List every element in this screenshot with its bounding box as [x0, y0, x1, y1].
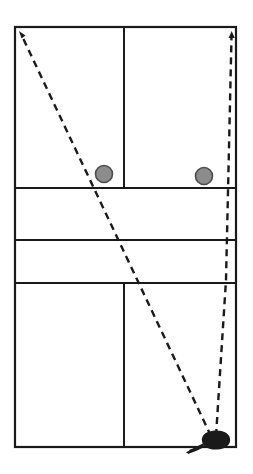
trajectories-group	[19, 31, 235, 436]
player-with-racket-figure	[186, 431, 230, 454]
shuttle-landing-left-marker	[96, 166, 113, 183]
shuttle-landing-right-marker	[196, 168, 213, 185]
racket-handle-silhouette	[189, 444, 205, 454]
straight-line-trajectory-line	[216, 37, 232, 436]
court-diagram-canvas	[0, 0, 253, 474]
player-body-silhouette	[202, 431, 230, 450]
shuttle-markers-group	[96, 166, 213, 185]
cross-court-trajectory-line	[22, 36, 211, 436]
court-lines-group	[15, 27, 236, 447]
straight-line-trajectory-arrowhead	[229, 31, 235, 38]
outer-boundary-line	[15, 27, 236, 447]
badminton-court-diagram	[0, 0, 253, 474]
cross-court-trajectory-arrowhead	[19, 31, 26, 39]
